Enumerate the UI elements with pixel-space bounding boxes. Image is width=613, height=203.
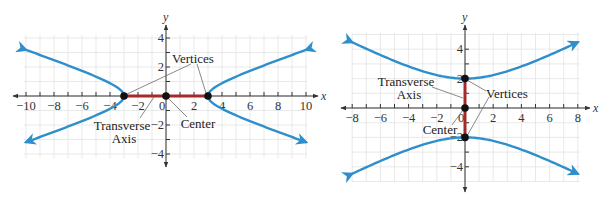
x-tick-label: 0 xyxy=(159,99,165,113)
y-tick-label: −4 xyxy=(450,160,464,174)
x-tick-label: −10 xyxy=(16,99,36,113)
y-axis-label: y xyxy=(461,10,468,24)
vertices-leader-top xyxy=(467,80,486,91)
vertices-label: Vertices xyxy=(486,86,528,101)
vertex-point xyxy=(461,75,469,83)
center-leader xyxy=(168,98,187,117)
x-tick-label: 6 xyxy=(546,111,552,125)
x-tick-label: 2 xyxy=(490,111,496,125)
x-tick-label: 8 xyxy=(575,111,581,125)
x-tick-label: −8 xyxy=(346,111,359,125)
x-tick-label: 8 xyxy=(275,99,281,113)
x-axis-label: x xyxy=(320,89,327,103)
y-tick-label: −4 xyxy=(151,147,165,161)
x-tick-label: 2 xyxy=(191,99,197,113)
y-tick-label: 2 xyxy=(158,60,164,74)
horizontal-hyperbola-graph: xy −10−8−6−4−2024681042−2−4 Vertices Tra… xyxy=(13,10,327,167)
y-tick-label: −2 xyxy=(151,118,164,132)
vertices-label: Vertices xyxy=(172,51,214,66)
x-tick-label: −4 xyxy=(402,111,416,125)
x-tick-label: 10 xyxy=(300,99,313,113)
x-axis-label: x xyxy=(592,101,599,115)
x-tick-label: −6 xyxy=(374,111,387,125)
x-tick-label: −6 xyxy=(75,99,88,113)
vertices-leader-bottom xyxy=(467,97,489,136)
transverse-label-line2: Axis xyxy=(397,87,422,102)
x-tick-label: 6 xyxy=(247,99,253,113)
center-point xyxy=(162,92,170,100)
hyperbola-diagrams: xy −10−8−6−4−2024681042−2−4 Vertices Tra… xyxy=(0,0,613,203)
transverse-label-line2: Axis xyxy=(112,131,137,146)
y-tick-label: 4 xyxy=(457,42,464,56)
center-label: Center xyxy=(181,116,216,131)
x-tick-label: −8 xyxy=(47,99,60,113)
axes: xy xyxy=(13,10,327,167)
vertical-hyperbola-graph: xy −8−6−4−20246842−2−4 Transverse Axis V… xyxy=(341,10,599,192)
vertex-point xyxy=(204,92,212,100)
center-label: Center xyxy=(423,122,458,137)
vertex-point xyxy=(461,134,469,142)
x-tick-label: −2 xyxy=(131,99,144,113)
y-tick-label: 4 xyxy=(158,31,165,45)
vertex-point xyxy=(120,92,128,100)
x-tick-label: 4 xyxy=(518,111,525,125)
center-point xyxy=(461,104,469,112)
y-axis-label: y xyxy=(162,10,169,24)
vertices-leader-right xyxy=(197,64,206,93)
